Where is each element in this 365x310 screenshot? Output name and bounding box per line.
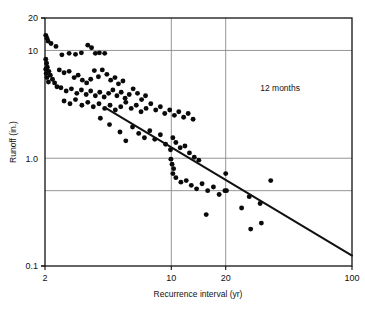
- scatter-plot: 21020100 0.11.01020 Recurrence interval …: [0, 0, 365, 310]
- y-tick-label-0: 0.1: [25, 261, 38, 271]
- trend-line: [105, 108, 352, 256]
- x-tick-label-0: 2: [42, 273, 47, 283]
- x-tick-label-1: 10: [166, 273, 176, 283]
- chart-annotation-0: 12 months: [260, 83, 300, 93]
- data-points: [43, 33, 273, 232]
- y-tick-label-3: 20: [28, 13, 38, 23]
- x-axis-title: Recurrence interval (yr): [154, 289, 243, 299]
- x-tick-label-2: 20: [221, 273, 231, 283]
- y-tick-label-2: 10: [28, 46, 38, 56]
- y-axis-title: Runoff (in.): [8, 121, 18, 163]
- chart-container: 21020100 0.11.01020 Recurrence interval …: [0, 0, 365, 310]
- y-tick-labels: 0.11.01020: [25, 13, 38, 271]
- y-tick-label-1: 1.0: [25, 154, 38, 164]
- x-tick-label-3: 100: [344, 273, 359, 283]
- tick-marks: [41, 18, 352, 270]
- annotations: 12 months: [260, 83, 300, 93]
- x-tick-labels: 21020100: [42, 273, 359, 283]
